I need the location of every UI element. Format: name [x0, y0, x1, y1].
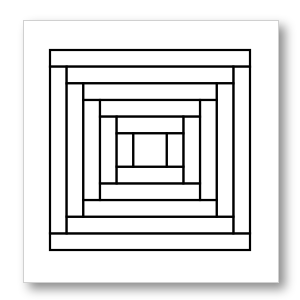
ring-2-left-bar — [83, 100, 100, 200]
ring-0-left-bar — [50, 67, 67, 234]
ring-1-bottom-bar — [67, 217, 234, 234]
ring-0-top-bar — [50, 50, 250, 67]
ring-3-top-bar — [100, 100, 200, 117]
ring-3-bottom-bar — [100, 183, 200, 200]
log-cabin-pattern — [0, 0, 300, 300]
ring-3-left-bar — [100, 117, 117, 184]
ring-0-bottom-bar — [50, 233, 250, 250]
ring-4-right-bar — [167, 133, 184, 166]
ring-2-bottom-bar — [83, 200, 216, 217]
ring-3-right-bar — [183, 117, 200, 184]
ring-4-left-bar — [117, 133, 134, 166]
ring-1-left-bar — [67, 83, 84, 216]
ring-4-top-bar — [117, 117, 184, 134]
ring-0-right-bar — [233, 67, 250, 234]
ring-1-right-bar — [217, 83, 234, 216]
ring-4-bottom-bar — [117, 167, 184, 184]
ring-2-top-bar — [83, 83, 216, 100]
center-square — [133, 133, 166, 166]
ring-2-right-bar — [200, 100, 217, 200]
ring-1-top-bar — [67, 67, 234, 84]
